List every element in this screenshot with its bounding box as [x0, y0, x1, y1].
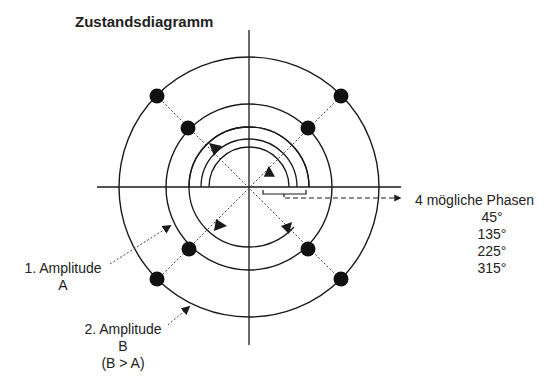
phase-135: 135°: [466, 226, 518, 243]
amplitude-a-label: 1. Amplitude A: [15, 260, 111, 294]
phase-315: 315°: [466, 260, 518, 277]
arrow-315-icon: [281, 222, 292, 234]
phase-225: 225°: [466, 243, 518, 260]
phase-45: 45°: [466, 209, 518, 226]
phases-label: 4 mögliche Phasen: [415, 192, 534, 209]
point-a-225: [182, 242, 197, 257]
point-b-315: [334, 272, 349, 287]
arrow-45-icon: [262, 165, 275, 179]
point-a-45: [301, 121, 316, 136]
point-b-225: [150, 272, 165, 287]
amplitude-b-label: 2. Amplitude B (B > A): [73, 321, 173, 372]
phase-list: 45° 135° 225° 315°: [466, 209, 518, 277]
diagram-title: Zustandsdiagramm: [75, 13, 213, 30]
point-b-135: [150, 89, 165, 104]
point-a-135: [181, 121, 196, 136]
phase-bracket: [263, 190, 306, 197]
point-b-45: [334, 89, 349, 104]
arrow-225-icon: [214, 219, 227, 231]
point-a-315: [301, 242, 316, 257]
arrow-135-icon: [209, 143, 222, 156]
